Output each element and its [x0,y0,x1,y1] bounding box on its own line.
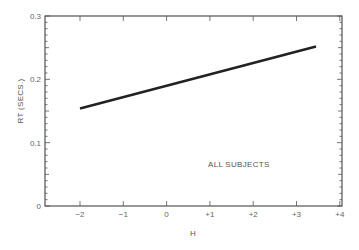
y-tick-label: 0.3 [30,12,42,21]
x-axis-title: H [190,229,196,238]
x-tick-label: +2 [249,210,259,219]
x-tick-label: −1 [119,210,129,219]
y-axis-title: RT (SECS.) [16,78,25,123]
y-axis-ticks: 00.10.20.3 [30,12,342,211]
y-tick-label: 0 [37,202,42,211]
y-tick-label: 0.1 [30,139,42,148]
x-tick-label: +3 [292,210,302,219]
x-tick-label: +1 [205,210,215,219]
x-axis-ticks: −2−10+1+2+3+4 [75,16,344,219]
series-line [80,46,316,108]
x-tick-label: +4 [335,210,345,219]
chart-canvas: 00.10.20.3 −2−10+1+2+3+4 RT (SECS.) H AL… [0,0,359,250]
x-tick-label: 0 [164,210,169,219]
plot-frame [45,16,342,206]
x-tick-label: −2 [75,210,85,219]
annotation-all-subjects: ALL SUBJECTS [208,160,270,169]
y-tick-label: 0.2 [30,75,42,84]
plot-border [45,16,342,206]
data-series [80,46,316,108]
